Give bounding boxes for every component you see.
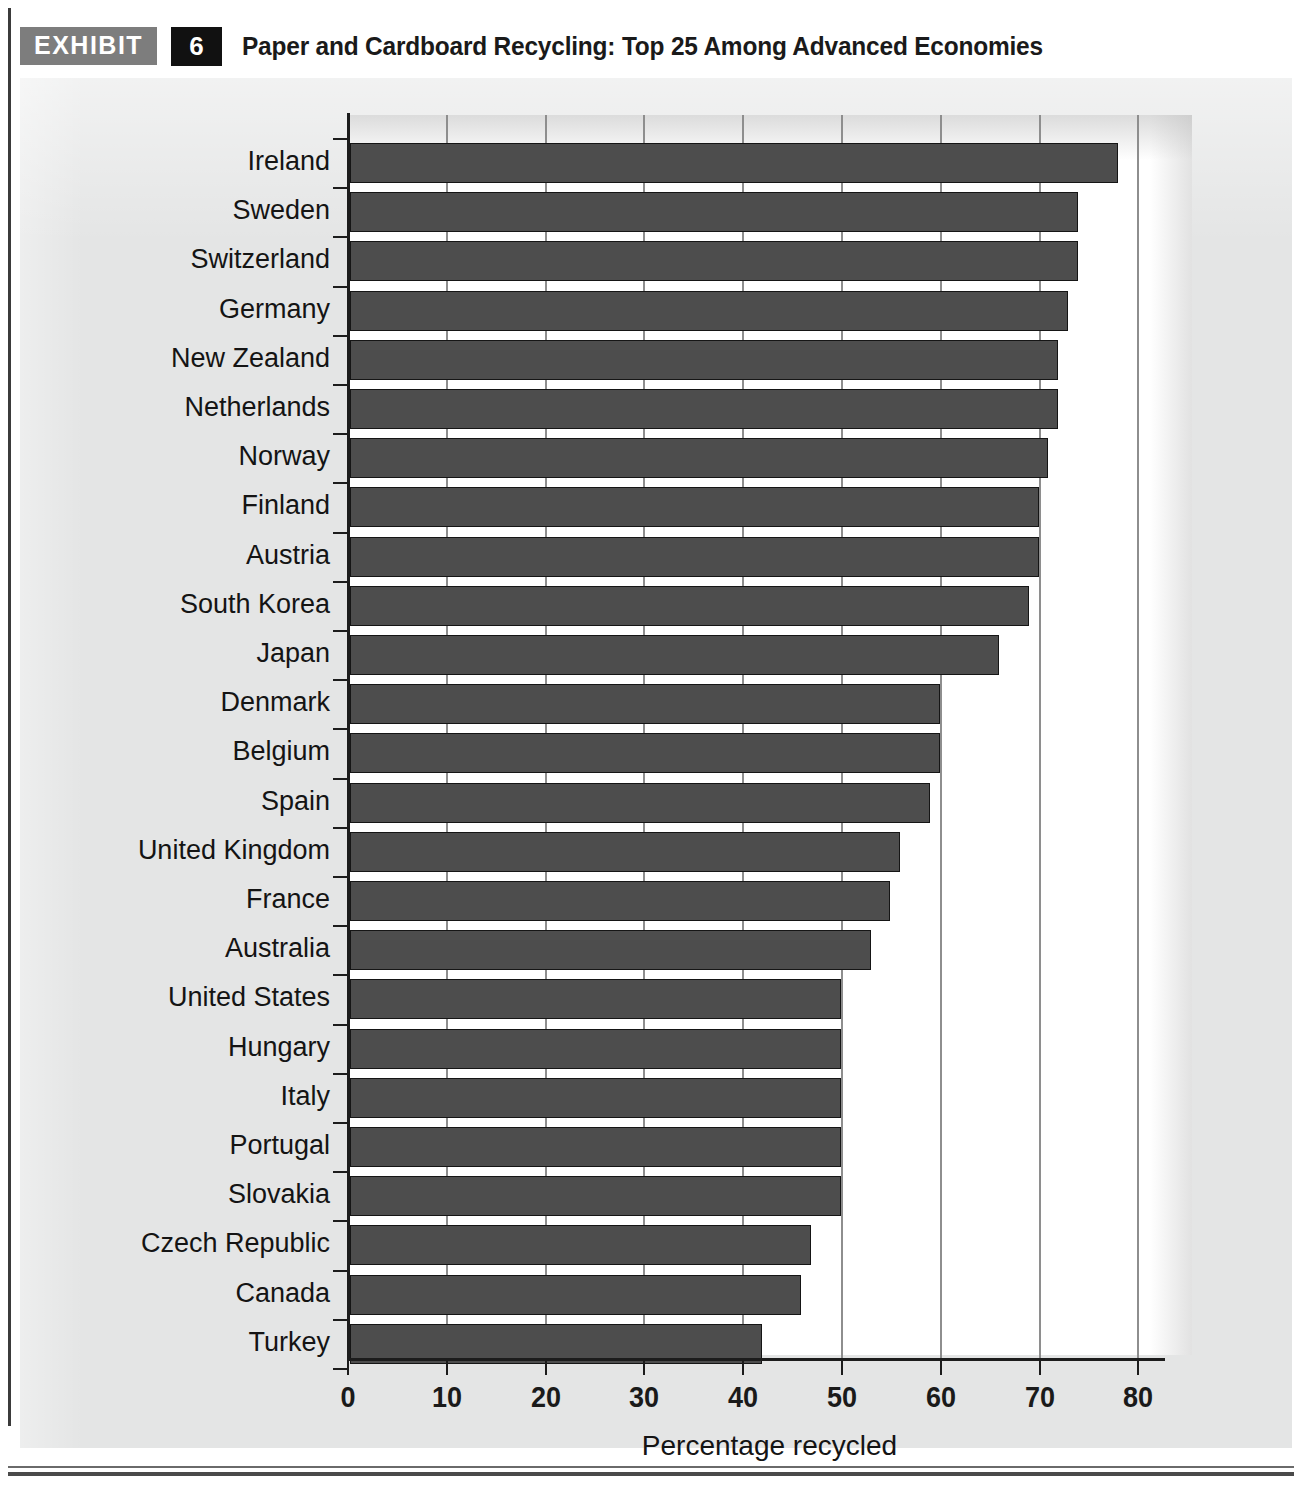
bar xyxy=(350,143,1118,183)
x-tick-label: 10 xyxy=(432,1380,462,1414)
exhibit-label-badge: EXHIBIT xyxy=(20,27,157,65)
bar xyxy=(350,586,1029,626)
x-tick-label: 50 xyxy=(827,1380,857,1414)
bar xyxy=(350,1127,841,1167)
category-label: Sweden xyxy=(20,195,330,226)
y-tick xyxy=(333,925,348,927)
category-label: Canada xyxy=(20,1278,330,1309)
category-label: Australia xyxy=(20,933,330,964)
bar xyxy=(350,1078,841,1118)
y-tick xyxy=(333,778,348,780)
footer-rule-thin xyxy=(8,1466,1294,1468)
x-tick-label: 30 xyxy=(629,1380,659,1414)
bar xyxy=(350,1176,841,1216)
category-label: United Kingdom xyxy=(20,835,330,866)
page-title: Paper and Cardboard Recycling: Top 25 Am… xyxy=(242,31,1043,62)
bar xyxy=(350,389,1058,429)
category-label: Czech Republic xyxy=(20,1228,330,1259)
category-label: South Korea xyxy=(20,589,330,620)
y-tick xyxy=(333,974,348,976)
bar xyxy=(350,635,999,675)
exhibit-number-badge: 6 xyxy=(171,27,221,66)
x-tick-label: 0 xyxy=(340,1380,355,1414)
exhibit-header: EXHIBIT 6 Paper and Cardboard Recycling:… xyxy=(20,20,1294,72)
category-label: Ireland xyxy=(20,146,330,177)
y-axis-line xyxy=(347,113,350,1361)
y-tick xyxy=(333,187,348,189)
category-label: Austria xyxy=(20,540,330,571)
category-label: Spain xyxy=(20,786,330,817)
y-tick xyxy=(333,433,348,435)
y-tick xyxy=(333,1270,348,1272)
bar xyxy=(350,487,1039,527)
y-tick xyxy=(333,1073,348,1075)
x-tick xyxy=(1039,1361,1041,1375)
y-tick xyxy=(333,384,348,386)
category-label: Netherlands xyxy=(20,392,330,423)
category-label: New Zealand xyxy=(20,343,330,374)
exhibit-page: EXHIBIT 6 Paper and Cardboard Recycling:… xyxy=(0,0,1302,1502)
y-tick xyxy=(333,581,348,583)
x-tick-label: 40 xyxy=(728,1380,758,1414)
bar xyxy=(350,684,940,724)
x-tick-label: 70 xyxy=(1025,1380,1055,1414)
x-tick xyxy=(545,1361,547,1375)
y-tick xyxy=(333,876,348,878)
chart-card: IrelandSwedenSwitzerlandGermanyNew Zeala… xyxy=(20,78,1292,1448)
x-axis-title: Percentage recycled xyxy=(347,1430,1192,1462)
category-label: Switzerland xyxy=(20,244,330,275)
category-label: Germany xyxy=(20,294,330,325)
category-label: Belgium xyxy=(20,736,330,767)
y-tick xyxy=(333,679,348,681)
category-label: Turkey xyxy=(20,1327,330,1358)
bar xyxy=(350,930,871,970)
y-tick xyxy=(333,1171,348,1173)
y-tick xyxy=(333,1368,348,1370)
x-tick xyxy=(841,1361,843,1375)
y-tick xyxy=(333,482,348,484)
bar xyxy=(350,192,1078,232)
y-tick xyxy=(333,286,348,288)
bar xyxy=(350,979,841,1019)
category-label: Finland xyxy=(20,490,330,521)
x-axis-line xyxy=(347,1358,1165,1361)
y-tick xyxy=(333,138,348,140)
bar xyxy=(350,832,900,872)
category-label: Italy xyxy=(20,1081,330,1112)
category-label: Hungary xyxy=(20,1032,330,1063)
y-tick xyxy=(333,236,348,238)
x-tick-label: 80 xyxy=(1123,1380,1153,1414)
bar xyxy=(350,881,890,921)
y-tick xyxy=(333,728,348,730)
category-label: Norway xyxy=(20,441,330,472)
bar xyxy=(350,340,1058,380)
category-label: United States xyxy=(20,982,330,1013)
x-tick-label: 60 xyxy=(926,1380,956,1414)
y-tick xyxy=(333,630,348,632)
category-label: Portugal xyxy=(20,1130,330,1161)
y-tick xyxy=(333,532,348,534)
y-tick xyxy=(333,335,348,337)
y-tick xyxy=(333,1220,348,1222)
bar xyxy=(350,1029,841,1069)
bar xyxy=(350,537,1039,577)
x-tick-label: 20 xyxy=(531,1380,561,1414)
bar xyxy=(350,1275,801,1315)
category-label: France xyxy=(20,884,330,915)
page-left-rule xyxy=(8,8,11,1426)
bar xyxy=(350,438,1048,478)
bar xyxy=(350,783,930,823)
bar xyxy=(350,733,940,773)
category-label: Slovakia xyxy=(20,1179,330,1210)
x-tick xyxy=(446,1361,448,1375)
y-tick xyxy=(333,1122,348,1124)
category-label: Japan xyxy=(20,638,330,669)
bar xyxy=(350,1225,811,1265)
x-tick xyxy=(742,1361,744,1375)
y-tick xyxy=(333,827,348,829)
category-label: Denmark xyxy=(20,687,330,718)
footer-rule-thick xyxy=(8,1472,1294,1476)
x-tick xyxy=(643,1361,645,1375)
bar xyxy=(350,291,1068,331)
y-tick xyxy=(333,1319,348,1321)
